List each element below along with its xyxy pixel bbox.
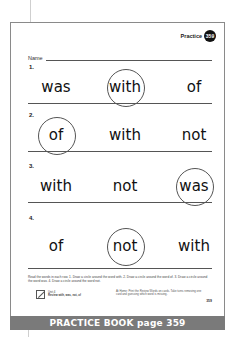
margin-line [28,330,29,337]
row-number: 2. [29,112,34,118]
word-option[interactable]: not [105,231,145,261]
margin-line [30,0,31,23]
at-home-note: At Home: Print the Review Words on cards… [116,290,206,297]
word-row-3: 3. with not was [28,161,212,203]
row-number: 1. [29,64,34,70]
practice-book-banner: PRACTICE BOOK page 359 [10,316,225,330]
practice-label: Practice [181,33,202,39]
word-option[interactable]: with [174,231,214,261]
page-number: 359 [206,299,212,303]
word-option[interactable]: of [36,120,76,150]
page-footer: Unit 4 Review with, was, not, of At Home… [28,290,212,300]
word-option[interactable]: of [36,231,76,261]
word-row-4: 4. of not with [28,213,212,269]
instructions-text: Read the words in each row. 1. Draw a ci… [28,275,212,283]
row-number: 3. [29,163,34,169]
row-divider [28,103,212,104]
unit-review: Review with, was, not, of [48,294,81,297]
worksheet-page: Practice 359 Name 1. was with of 2. of w… [10,22,225,316]
word-option[interactable]: with [105,120,145,150]
row-number: 4. [29,215,34,221]
row-divider [28,268,212,269]
practice-header: Practice 359 [181,30,216,42]
unit-info: Unit 4 Review with, was, not, of [48,291,81,298]
name-field: Name [28,55,212,61]
word-row-1: 1. was with of [28,62,212,104]
row-divider [28,202,212,203]
word-option[interactable]: was [174,171,214,201]
word-option[interactable]: not [105,171,145,201]
word-option[interactable]: was [36,72,76,102]
word-option[interactable]: of [174,72,214,102]
name-label: Name [28,55,43,61]
name-line[interactable] [46,55,212,61]
word-option[interactable]: with [36,171,76,201]
unit-icon [36,290,45,299]
word-row-2: 2. of with not [28,110,212,152]
practice-number-badge: 359 [204,30,216,42]
word-option[interactable]: not [174,120,214,150]
word-option[interactable]: with [105,72,145,102]
row-divider [28,151,212,152]
